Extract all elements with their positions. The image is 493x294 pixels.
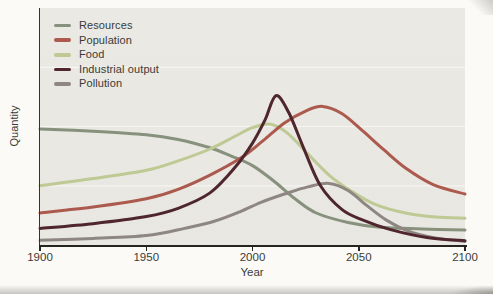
plot-area: ResourcesPopulationFoodIndustrial output… <box>40 8 465 245</box>
x-tick-label: 2050 <box>346 251 372 263</box>
x-tick-label: 1950 <box>133 251 159 263</box>
x-axis-label: Year <box>240 266 263 278</box>
x-tick-label: 2000 <box>240 251 266 263</box>
legend-label: Pollution <box>79 78 122 89</box>
legend-label: Resources <box>79 20 132 31</box>
curve-food <box>40 124 465 218</box>
legend-swatch-population <box>54 38 71 42</box>
y-axis-label: Quantity <box>8 106 20 147</box>
legend-item: Resources <box>54 20 159 31</box>
legend-item: Pollution <box>54 78 159 89</box>
curve-population <box>40 106 465 213</box>
legend-swatch-resources <box>54 24 71 28</box>
legend-swatch-pollution <box>54 82 71 86</box>
x-tick-label: 1900 <box>27 251 53 263</box>
legend-label: Food <box>79 49 104 60</box>
page-corner-shadow <box>465 0 493 15</box>
legend-swatch-food <box>54 53 71 57</box>
legend-item: Industrial output <box>54 64 159 75</box>
legend-swatch-industrial-output <box>54 68 71 72</box>
page-edge-shadow <box>0 285 493 294</box>
legend-item: Food <box>54 49 159 60</box>
legend-label: Population <box>79 35 132 46</box>
legend-item: Population <box>54 35 159 46</box>
curve-industrial-output <box>40 96 465 241</box>
book-page: Quantity ResourcesPopulationFoodIndustri… <box>0 0 493 294</box>
x-tick-label: 2100 <box>452 251 478 263</box>
legend: ResourcesPopulationFoodIndustrial output… <box>54 20 159 90</box>
y-axis-line <box>39 8 41 247</box>
legend-label: Industrial output <box>79 64 159 75</box>
